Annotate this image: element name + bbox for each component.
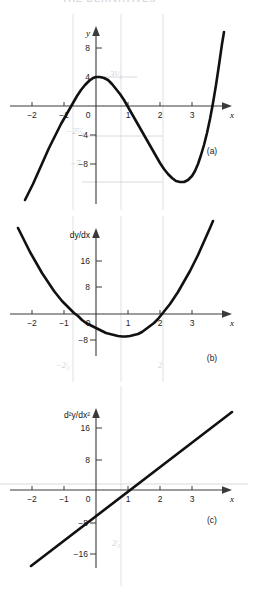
- xtick-label-c-3: 1: [126, 494, 131, 504]
- page-header-strip: THE DERIVATIVES: [0, 0, 262, 9]
- ytick-label-c-8: 8: [85, 455, 90, 465]
- chart-panel-b: −2 −1 0 1 2 3 −8 8 16 dy/dx x −2⁄₃ 2 (b): [0, 216, 262, 382]
- ytick-label-b-16: 16: [81, 256, 91, 266]
- xtick-label-c-5: 3: [190, 494, 195, 504]
- x-axis-label-b: x: [229, 318, 234, 328]
- xtick-label-b-1: −1: [59, 318, 69, 328]
- page-header-text: THE DERIVATIVES: [62, 0, 156, 4]
- y-axis-arrow-b: [92, 228, 100, 238]
- xtick-label-c-0: −2: [27, 494, 37, 504]
- xtick-label-a-0: −2: [27, 110, 37, 120]
- xtick-label-a-5: 3: [190, 110, 195, 120]
- xtick-label-a-4: 2: [158, 110, 163, 120]
- ytick-label-b--8: −8: [78, 335, 88, 345]
- panel-tag-a: (a): [207, 146, 218, 156]
- xtick-label-c-1: −1: [59, 494, 69, 504]
- xtick-label-b-0: −2: [27, 318, 37, 328]
- ytick-label-a-8: 8: [85, 43, 90, 53]
- y-axis-arrow-c: [92, 408, 100, 418]
- panel-tag-b: (b): [207, 353, 218, 363]
- xtick-label-c-4: 2: [158, 494, 163, 504]
- ytick-label-b-8: 8: [85, 282, 90, 292]
- chart-panel-c: −2 −1 0 1 2 3 −16 −8 8 16 d²y/dx² x 2⁄₃ …: [0, 386, 262, 586]
- pencil-root-left-b: −2⁄₃: [56, 361, 70, 370]
- x-axis-label-c: x: [229, 494, 234, 504]
- y-axis-label-a: y: [85, 28, 90, 38]
- xtick-label-c-2: 0: [86, 494, 91, 504]
- x-axis-arrow-c: [222, 486, 232, 494]
- x-axis-arrow-b: [222, 310, 232, 318]
- ytick-label-c--16: −16: [74, 549, 89, 559]
- xtick-label-b-5: 3: [190, 318, 195, 328]
- x-axis-arrow-a: [222, 102, 232, 110]
- pencil-max-value: 3¹⁄₃: [109, 69, 122, 79]
- y-axis-arrow-a: [92, 26, 100, 36]
- xtick-label-a-2: 0: [86, 110, 91, 120]
- second-derivative-line: [31, 412, 232, 566]
- pencil-min-value: −7: [70, 158, 81, 168]
- xtick-label-b-3: 1: [126, 318, 131, 328]
- y-axis-label-c: d²y/dx²: [64, 410, 90, 420]
- panel-tag-c: (c): [207, 515, 217, 525]
- chart-c-svg: −2 −1 0 1 2 3 −16 −8 8 16 d²y/dx² x 2⁄₃ …: [0, 386, 262, 586]
- chart-b-svg: −2 −1 0 1 2 3 −8 8 16 dy/dx x −2⁄₃ 2 (b): [0, 216, 262, 382]
- pencil-root-c: 2⁄₃: [112, 539, 120, 548]
- ytick-label-c-16: 16: [81, 423, 91, 433]
- derivative-curve: [18, 221, 213, 337]
- pencil-root-right-b: 2: [158, 361, 162, 370]
- chart-panel-a: −2 −1 0 1 2 3 −8 −4 4 8 y x 3¹⁄₃ −2⁷⁄₉ −…: [0, 14, 262, 210]
- figure-page: THE DERIVATIVES: [0, 0, 262, 592]
- x-axis-label-a: x: [229, 110, 234, 120]
- y-axis-label-b: dy/dx: [70, 230, 91, 240]
- pencil-inflection-value: −2⁷⁄₉: [66, 126, 84, 136]
- chart-a-svg: −2 −1 0 1 2 3 −8 −4 4 8 y x 3¹⁄₃ −2⁷⁄₉ −…: [0, 14, 262, 210]
